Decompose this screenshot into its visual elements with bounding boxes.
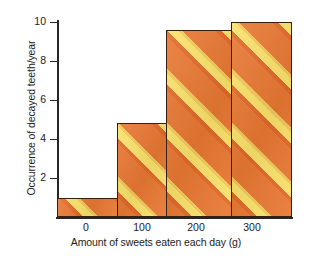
bar-0[interactable] xyxy=(57,198,118,218)
y-tick-mark-6 xyxy=(50,100,57,102)
y-tick-mark-2 xyxy=(50,178,57,180)
y-tick-mark-10 xyxy=(50,22,57,24)
x-tick-label-300: 300 xyxy=(232,221,272,233)
y-tick-label-6: 6 xyxy=(20,93,46,105)
y-tick-mark-8 xyxy=(50,61,57,63)
y-tick-label-8: 8 xyxy=(20,54,46,66)
bar-chart: Occurrence of decayed teeth/year 10 8 6 … xyxy=(0,0,312,256)
y-tick-label-10: 10 xyxy=(20,15,46,27)
plot-area xyxy=(57,20,293,217)
bar-100[interactable] xyxy=(117,123,167,217)
y-tick-label-2: 2 xyxy=(20,171,46,183)
bar-300[interactable] xyxy=(231,22,292,217)
x-tick-label-100: 100 xyxy=(122,221,162,233)
y-axis-title: Occurrence of decayed teeth/year xyxy=(25,23,37,213)
x-tick-label-200: 200 xyxy=(176,221,216,233)
x-axis-title: Amount of sweets eaten each day (g) xyxy=(0,236,312,248)
x-axis-line xyxy=(56,217,293,219)
y-tick-label-4: 4 xyxy=(20,132,46,144)
x-tick-label-0: 0 xyxy=(66,221,106,233)
y-tick-mark-4 xyxy=(50,139,57,141)
bar-200[interactable] xyxy=(166,30,232,217)
